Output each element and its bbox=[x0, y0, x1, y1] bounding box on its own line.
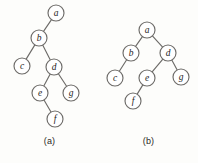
tree-edge-e-f bbox=[137, 85, 143, 94]
tree-node-a: a bbox=[139, 22, 155, 38]
tree-edge-a-b bbox=[136, 37, 143, 47]
tree-edge-d-e bbox=[152, 59, 163, 72]
tree-edge-d-e bbox=[44, 74, 50, 86]
tree-edge-b-c bbox=[26, 45, 35, 59]
node-label-b: b bbox=[129, 48, 134, 58]
tree-panel-b: abdcegf (b) bbox=[99, 0, 198, 163]
tree-node-a: a bbox=[48, 5, 64, 21]
tree-edge-b-c bbox=[119, 60, 126, 72]
tree-edge-d-g bbox=[172, 60, 177, 70]
tree-edge-b-d bbox=[43, 45, 51, 60]
tree-diagram-a: abcdegf bbox=[0, 0, 99, 135]
tree-node-f: f bbox=[125, 93, 141, 109]
tree-edge-a-d bbox=[152, 36, 162, 47]
caption-a: (a) bbox=[0, 136, 99, 146]
node-label-d: d bbox=[166, 48, 171, 58]
node-label-d: d bbox=[52, 62, 57, 72]
tree-panel-a: abcdegf (a) bbox=[0, 0, 99, 163]
tree-diagram-b: abdcegf bbox=[99, 0, 198, 135]
tree-node-e: e bbox=[139, 70, 155, 86]
tree-node-b: b bbox=[123, 45, 139, 61]
node-label-e: e bbox=[145, 73, 149, 83]
tree-node-g: g bbox=[173, 69, 189, 85]
node-label-g: g bbox=[179, 72, 184, 82]
node-label-b: b bbox=[37, 33, 42, 43]
tree-node-d: d bbox=[46, 59, 62, 75]
caption-b: (b) bbox=[99, 136, 198, 146]
node-label-e: e bbox=[38, 88, 42, 98]
tree-edge-a-b bbox=[44, 20, 52, 32]
tree-edge-e-f bbox=[44, 100, 51, 112]
tree-node-e: e bbox=[32, 85, 48, 101]
tree-node-f: f bbox=[47, 111, 63, 127]
tree-node-c: c bbox=[14, 58, 30, 74]
tree-node-g: g bbox=[63, 85, 79, 101]
node-label-g: g bbox=[69, 88, 74, 98]
node-label-a: a bbox=[54, 8, 59, 18]
tree-node-c: c bbox=[107, 70, 123, 86]
figure-binary-trees: abcdegf (a) abdcegf (b) bbox=[0, 0, 198, 163]
tree-node-b: b bbox=[31, 30, 47, 46]
node-label-a: a bbox=[145, 25, 150, 35]
tree-node-d: d bbox=[160, 45, 176, 61]
tree-edge-d-g bbox=[58, 74, 66, 87]
